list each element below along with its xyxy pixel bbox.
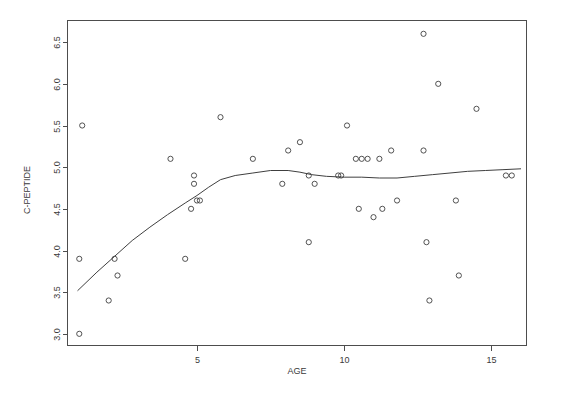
y-tick-label: 5.5 bbox=[52, 120, 62, 133]
scatter-plot-svg: 3.03.54.04.55.05.56.06.5 51015 AGE C-PEP… bbox=[0, 0, 564, 401]
data-point-marker bbox=[344, 123, 349, 128]
data-point-marker bbox=[436, 81, 441, 86]
data-point-marker bbox=[188, 206, 193, 211]
data-point-marker bbox=[509, 173, 514, 178]
data-point-marker bbox=[106, 298, 111, 303]
y-tick-label: 5.0 bbox=[52, 161, 62, 174]
data-point-marker bbox=[365, 156, 370, 161]
y-axis-title: C-PEPTIDE bbox=[22, 166, 32, 214]
data-point-marker bbox=[218, 115, 223, 120]
data-point-marker bbox=[306, 240, 311, 245]
y-tick-label: 3.5 bbox=[52, 286, 62, 299]
data-point-marker bbox=[280, 181, 285, 186]
data-point-marker bbox=[389, 148, 394, 153]
x-axis-ticks: 51015 bbox=[195, 346, 497, 365]
scatter-points bbox=[77, 31, 515, 336]
y-tick-label: 6.0 bbox=[52, 78, 62, 91]
data-point-marker bbox=[191, 181, 196, 186]
data-point-marker bbox=[427, 298, 432, 303]
data-point-marker bbox=[371, 215, 376, 220]
data-point-marker bbox=[297, 140, 302, 145]
data-point-marker bbox=[191, 173, 196, 178]
data-point-marker bbox=[474, 106, 479, 111]
data-point-marker bbox=[456, 273, 461, 278]
y-tick-label: 3.0 bbox=[52, 328, 62, 341]
x-tick-label: 10 bbox=[339, 355, 349, 365]
data-point-marker bbox=[394, 198, 399, 203]
data-point-marker bbox=[421, 31, 426, 36]
y-tick-label: 4.0 bbox=[52, 245, 62, 258]
data-point-marker bbox=[80, 123, 85, 128]
data-point-marker bbox=[359, 156, 364, 161]
y-tick-label: 6.5 bbox=[52, 36, 62, 49]
data-point-marker bbox=[183, 256, 188, 261]
data-point-marker bbox=[424, 240, 429, 245]
data-point-marker bbox=[380, 206, 385, 211]
data-point-marker bbox=[453, 198, 458, 203]
data-point-marker bbox=[356, 206, 361, 211]
x-tick-label: 5 bbox=[195, 355, 200, 365]
x-axis-title: AGE bbox=[287, 366, 306, 376]
data-point-marker bbox=[115, 273, 120, 278]
data-point-marker bbox=[503, 173, 508, 178]
loess-smoothing-curve bbox=[78, 169, 521, 291]
data-point-marker bbox=[168, 156, 173, 161]
plot-frame bbox=[68, 21, 527, 346]
y-tick-label: 4.5 bbox=[52, 203, 62, 216]
data-point-marker bbox=[377, 156, 382, 161]
plot-box-border bbox=[68, 21, 527, 346]
data-point-marker bbox=[312, 181, 317, 186]
data-point-marker bbox=[286, 148, 291, 153]
chart-canvas: 3.03.54.04.55.05.56.06.5 51015 AGE C-PEP… bbox=[0, 0, 564, 401]
smooth-curve-path bbox=[78, 169, 521, 291]
y-axis-ticks: 3.03.54.04.55.05.56.06.5 bbox=[52, 36, 68, 341]
data-point-marker bbox=[421, 148, 426, 153]
data-point-marker bbox=[77, 331, 82, 336]
data-point-marker bbox=[353, 156, 358, 161]
data-point-marker bbox=[77, 256, 82, 261]
data-point-marker bbox=[112, 256, 117, 261]
x-tick-label: 15 bbox=[486, 355, 496, 365]
data-point-marker bbox=[250, 156, 255, 161]
